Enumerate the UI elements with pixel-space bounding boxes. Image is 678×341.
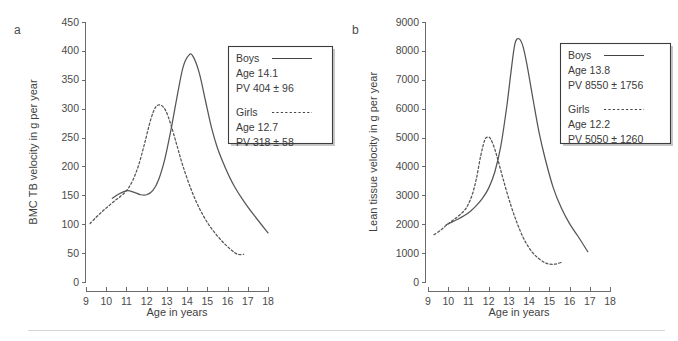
x-tick-label: 9 xyxy=(425,295,431,307)
y-tick-label: 100 xyxy=(61,218,79,230)
legend-girls-name: Girls xyxy=(568,103,590,115)
y-tick-label: 0 xyxy=(413,276,419,288)
y-tick-label: 2000 xyxy=(396,218,420,230)
x-tick-label: 17 xyxy=(584,295,596,307)
legend-boys-name: Boys xyxy=(568,49,591,61)
y-tick-label: 150 xyxy=(61,189,79,201)
figure-root: a050100150200250300350400450BMC TB veloc… xyxy=(0,0,678,341)
legend-boys-age: Age 13.8 xyxy=(568,64,610,76)
y-tick-label: 0 xyxy=(73,276,79,288)
legend-girls-age: Age 12.7 xyxy=(236,121,278,133)
panel-letter-a: a xyxy=(14,23,21,37)
y-axis-title: BMC TB velocity in g per year xyxy=(27,79,39,225)
x-tick-label: 16 xyxy=(564,295,576,307)
x-axis-title: Age in years xyxy=(488,306,550,318)
y-tick-label: 7000 xyxy=(396,73,420,85)
y-tick-label: 50 xyxy=(67,247,79,259)
x-tick-label: 11 xyxy=(121,295,132,307)
x-tick-label: 18 xyxy=(604,295,616,307)
y-tick-label: 4000 xyxy=(396,160,420,172)
y-tick-label: 5000 xyxy=(396,131,420,143)
x-tick-label: 18 xyxy=(262,295,274,307)
legend-boys-pv: PV 404 ± 96 xyxy=(236,82,294,94)
x-tick-label: 11 xyxy=(463,295,474,307)
y-tick-label: 6000 xyxy=(396,102,420,114)
legend-boys-age: Age 14.1 xyxy=(236,67,278,79)
legend-girls-pv: PV 318 ± 58 xyxy=(236,136,294,148)
x-tick-label: 16 xyxy=(222,295,234,307)
y-tick-label: 350 xyxy=(61,73,79,85)
legend-girls-name: Girls xyxy=(236,106,258,118)
y-tick-label: 8000 xyxy=(396,44,420,56)
y-axis-title: Lean tissue velocity in g per year xyxy=(367,72,379,233)
y-tick-label: 300 xyxy=(61,102,79,114)
legend-girls-age: Age 12.2 xyxy=(568,118,610,130)
y-tick-label: 450 xyxy=(61,16,79,28)
x-tick-label: 10 xyxy=(442,295,454,307)
y-tick-label: 3000 xyxy=(396,189,420,201)
panel-letter-b: b xyxy=(352,23,359,37)
x-tick-label: 10 xyxy=(100,295,112,307)
y-tick-label: 250 xyxy=(61,131,79,143)
legend-girls-pv: PV 5050 ± 1260 xyxy=(568,133,643,145)
x-axis-title: Age in years xyxy=(146,306,208,318)
legend-boys-name: Boys xyxy=(236,52,259,64)
y-tick-label: 1000 xyxy=(396,247,420,259)
x-tick-label: 17 xyxy=(242,295,254,307)
legend-boys-pv: PV 8550 ± 1756 xyxy=(568,79,643,91)
y-tick-label: 200 xyxy=(61,160,79,172)
y-tick-label: 400 xyxy=(61,44,79,56)
x-tick-label: 9 xyxy=(83,295,89,307)
y-tick-label: 9000 xyxy=(396,16,420,28)
